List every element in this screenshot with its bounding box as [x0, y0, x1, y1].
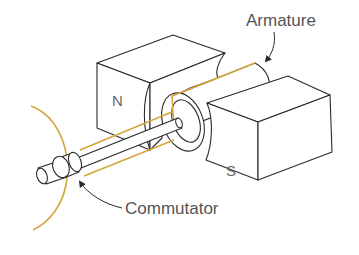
dc-motor-diagram: N S Armature Commutator: [0, 0, 359, 255]
armature-callout-arrow: [266, 32, 275, 61]
commutator: [35, 151, 84, 186]
commutator-callout-arrow: [80, 182, 122, 208]
north-pole-label: N: [112, 92, 123, 109]
south-pole-label: S: [226, 162, 236, 179]
commutator-label: Commutator: [125, 199, 219, 218]
armature-label: Armature: [246, 11, 316, 30]
